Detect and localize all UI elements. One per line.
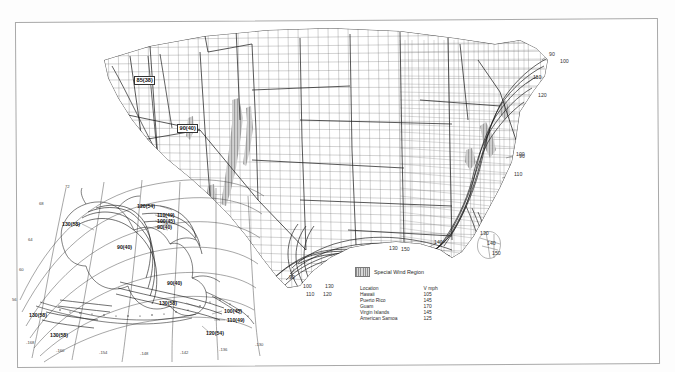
alaska-lon-tick-130: -130 <box>255 343 263 347</box>
scanned-page: 85(38) 90(40) 90 100 110 120 90 100 110 … <box>0 0 675 372</box>
contour-label-120-northeast: 120 <box>538 93 547 98</box>
label-85-38: 85(38) <box>134 76 155 85</box>
contour-label-100-carolina: 100 <box>516 152 525 157</box>
alaska-lon-tick-142: -142 <box>180 351 188 355</box>
alaska-label-130-58-southwest: 130(58) <box>29 313 47 318</box>
contour-label-150-florida: 150 <box>492 251 501 256</box>
contour-label-140-gulf-east: 140 <box>434 240 443 245</box>
alaska-lat-tick-56: 56 <box>12 298 17 302</box>
contour-label-110-northeast: 110 <box>533 75 541 80</box>
alaska-lon-tick-154: -154 <box>99 351 107 355</box>
contour-label-100-northeast: 100 <box>560 59 569 64</box>
alaska-lat-tick-64: 64 <box>28 238 33 242</box>
alaska-label-120-54-aleutian: 120(54) <box>206 331 224 336</box>
alaska-label-130-58-west: 130(58) <box>62 222 80 227</box>
alaska-label-90-40-north: 90(40) <box>157 225 172 230</box>
contour-label-130-florida: 130 <box>480 231 489 236</box>
special-wind-region-label: Special Wind Region <box>374 269 424 275</box>
alaska-lon-tick-168: -168 <box>26 341 34 345</box>
alaska-lon-tick-160: -160 <box>56 349 64 353</box>
alaska-label-100-45-aleutian: 100(45) <box>224 309 242 314</box>
alaska-lat-tick-60: 60 <box>19 268 24 272</box>
contour-label-100-texas: 100 <box>303 284 312 289</box>
alaska-lon-tick-136: -136 <box>219 348 227 352</box>
contour-label-130-texas: 130 <box>325 284 334 289</box>
contour-label-130-gulf: 130 <box>389 246 398 251</box>
alaska-label-110-49-aleutian: 110(49) <box>227 318 245 323</box>
alaska-label-90-40-south: 90(40) <box>167 281 182 286</box>
alaska-label-130-58-peninsula: 130(58) <box>159 301 177 306</box>
map-sheet: 85(38) 90(40) 90 100 110 120 90 100 110 … <box>0 0 675 372</box>
wind-speed-map-graphic <box>0 0 675 372</box>
row-value-american-samoa: 125 <box>398 317 438 323</box>
alaska-lat-tick-72: 72 <box>65 185 70 189</box>
location-wind-speed-table: Location V mph Hawaii 105 Puerto Rico 14… <box>360 287 438 323</box>
contour-label-90-northeast: 90 <box>549 52 555 57</box>
alaska-lat-tick-68: 68 <box>39 202 44 206</box>
label-90-40-west: 90(40) <box>177 124 198 133</box>
alaska-label-130-58-bottom: 130(58) <box>50 333 68 338</box>
map-legend: Special Wind Region <box>355 262 424 280</box>
contour-label-110-texas: 110 <box>306 292 314 297</box>
row-location-american-samoa: American Samoa <box>360 317 398 323</box>
contour-label-120-texas: 120 <box>323 292 332 297</box>
alaska-label-90-40-interior: 90(40) <box>117 245 132 250</box>
contour-label-140-florida: 140 <box>487 241 496 246</box>
contour-label-150-gulf: 150 <box>401 247 410 252</box>
mainland-us-map <box>95 20 565 305</box>
table-row: American Samoa 125 <box>360 317 438 323</box>
special-wind-region-swatch <box>355 267 370 277</box>
contour-label-90-texas: 90 <box>289 275 295 280</box>
contour-label-110-carolina: 110 <box>514 172 522 177</box>
alaska-lon-tick-148: -148 <box>140 352 148 356</box>
alaska-label-120-54-north: 120(54) <box>137 204 155 209</box>
